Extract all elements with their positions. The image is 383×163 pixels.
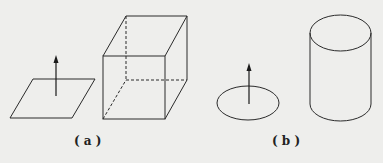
panel-b-label: ( b ) bbox=[272, 134, 300, 148]
diagram-canvas bbox=[0, 0, 383, 163]
panel-a-label: ( a ) bbox=[74, 134, 102, 148]
flat-square-surface bbox=[10, 79, 95, 118]
cube-surface bbox=[103, 16, 187, 119]
flat-circular-surface bbox=[217, 86, 279, 120]
normal-arrow-icon-b bbox=[247, 63, 252, 104]
cylinder-surface bbox=[310, 15, 371, 121]
normal-arrow-icon-a bbox=[54, 55, 59, 96]
